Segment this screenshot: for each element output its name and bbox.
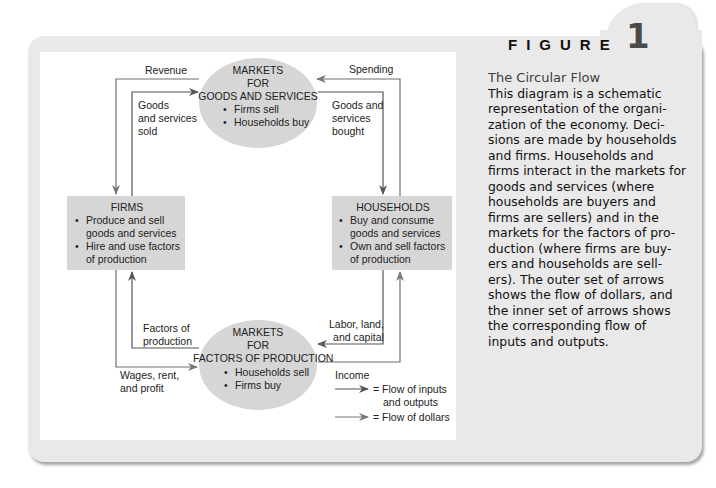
firms-text: FIRMS Produce and sell goods and service…: [70, 201, 184, 266]
revenue-label: Revenue: [145, 64, 187, 77]
income-label: Income: [335, 369, 369, 382]
goods-market-bullet: Firms sell: [234, 103, 309, 116]
firms-bullet: Produce and sell goods and services: [86, 214, 184, 240]
factor-market-title: MARKETS FOR FACTORS OF PRODUCTION: [193, 326, 323, 365]
wages-flow-arrow: [116, 270, 197, 367]
goods-bought-line: services: [332, 112, 383, 125]
households-text: HOUSEHOLDS Buy and consume goods and ser…: [334, 201, 452, 266]
spending-label: Spending: [349, 63, 393, 76]
firms-title: FIRMS: [70, 201, 184, 214]
income-flow-arrow: [318, 272, 400, 362]
goods-market-title: MARKETS FOR GOODS AND SERVICES: [198, 64, 318, 103]
wages-rent-profit-label: Wages, rent, and profit: [120, 369, 179, 395]
legend-inputs-outputs: = Flow of inputs and outputs: [373, 383, 447, 409]
legend-line: = Flow of dollars: [373, 411, 450, 424]
caption-body: This diagram is a schematic representati…: [488, 86, 688, 350]
factor-market-title-line: FOR: [193, 339, 323, 352]
goods-sold-line: and services: [138, 112, 197, 125]
legend-line: = Flow of inputs: [373, 383, 447, 396]
labor-line: and capital: [329, 331, 384, 344]
goods-market-bullets: Firms sell Households buy: [218, 103, 309, 129]
households-bullet: Own and sell factors of production: [350, 240, 452, 266]
factors-of-production-label: Factors of production: [143, 322, 192, 348]
goods-bought-line: bought: [332, 125, 383, 138]
goods-sold-line: sold: [138, 125, 197, 138]
wages-line: Wages, rent,: [120, 369, 179, 382]
legend-dollars: = Flow of dollars: [373, 411, 450, 424]
caption-title: The Circular Flow: [488, 70, 688, 86]
figure-caption: The Circular Flow This diagram is a sche…: [488, 70, 688, 349]
goods-market-bullet: Households buy: [234, 116, 309, 129]
goods-sold-label: Goods and services sold: [138, 99, 197, 138]
goods-bought-label: Goods and services bought: [332, 99, 383, 138]
factor-market-bullet: Households sell: [235, 366, 309, 379]
goods-bought-line: Goods and: [332, 99, 383, 112]
legend-line: and outputs: [373, 396, 447, 409]
goods-market-title-line: MARKETS: [198, 64, 318, 77]
factor-market-bullet: Firms buy: [235, 379, 309, 392]
labor-line: Labor, land,: [329, 318, 384, 331]
factor-market-title-line: FACTORS OF PRODUCTION: [193, 352, 323, 365]
factors-line: production: [143, 335, 192, 348]
firms-bullet: Hire and use factors of production: [86, 240, 184, 266]
goods-sold-line: Goods: [138, 99, 197, 112]
factor-market-title-line: MARKETS: [193, 326, 323, 339]
goods-market-title-line: FOR: [198, 77, 318, 90]
households-bullet: Buy and consume goods and services: [350, 214, 452, 240]
factors-line: Factors of: [143, 322, 192, 335]
households-title: HOUSEHOLDS: [334, 201, 452, 214]
wages-line: and profit: [120, 382, 179, 395]
goods-market-title-line: GOODS AND SERVICES: [198, 90, 318, 103]
factor-market-bullets: Households sell Firms buy: [219, 366, 309, 392]
labor-land-capital-label: Labor, land, and capital: [329, 318, 384, 344]
